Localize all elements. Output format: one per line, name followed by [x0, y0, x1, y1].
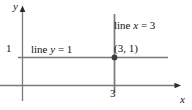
vertical-line-annotation: line x = 3	[114, 20, 155, 31]
diagram-canvas	[0, 0, 192, 110]
x-axis-tick-label-3: 3	[110, 88, 116, 99]
x-axis-arrowhead	[175, 83, 182, 89]
intersection-point-marker	[112, 55, 118, 61]
horizontal-line-annotation: line y = 1	[31, 44, 72, 55]
math-coordinate-diagram: y x 1 3 line y = 1 line x = 3 (3, 1)	[0, 0, 192, 110]
horizontal-line-annotation-suffix: = 1	[55, 43, 72, 55]
vertical-line-annotation-prefix: line	[114, 19, 133, 31]
horizontal-line-annotation-prefix: line	[31, 43, 50, 55]
y-axis-label: y	[13, 1, 18, 12]
x-axis-label: x	[180, 94, 185, 105]
intersection-point-label: (3, 1)	[114, 43, 138, 54]
y-axis-tick-label-1: 1	[6, 43, 12, 54]
vertical-line-annotation-suffix: = 3	[138, 19, 155, 31]
y-axis-arrowhead	[20, 6, 26, 13]
